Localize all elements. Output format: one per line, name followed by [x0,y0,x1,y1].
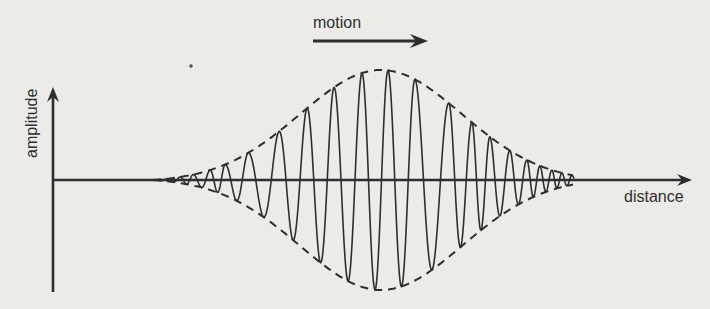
motion-label: motion [313,14,361,32]
motion-arrow [313,34,428,48]
y-axis-label: amplitude [23,89,41,158]
wave-packet-diagram [0,0,710,309]
print-speck [189,64,193,68]
envelope-upper-dashed [153,70,573,180]
x-axis-label: distance [624,188,684,206]
envelope-lower-dashed [153,180,573,290]
